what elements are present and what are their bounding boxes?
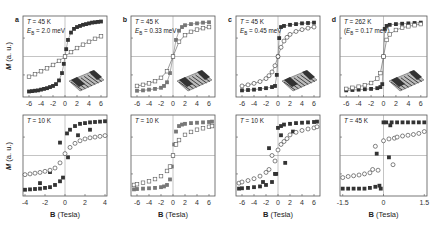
- x-tick-label: -2: [42, 199, 48, 206]
- x-tick-label: -2: [158, 100, 164, 107]
- x-tick-label: 0: [171, 100, 175, 107]
- x-tick-label: 2: [75, 100, 79, 107]
- x-tick-label: 4: [195, 199, 199, 206]
- x-tick-label: 0: [276, 100, 280, 107]
- x-tick-label: 2: [183, 199, 187, 206]
- x-tick-label: 0: [63, 100, 67, 107]
- panel-label: c: [228, 16, 232, 23]
- x-tick-label: -4: [22, 199, 28, 206]
- x-tick-label: -1.5: [337, 199, 349, 206]
- panel-annotation: T = 45 K: [344, 117, 369, 124]
- panel-c-top: -6-4-20246cT = 45 KEB = 0.45 meV: [228, 16, 320, 107]
- panel-annotation: T = 45 K: [240, 18, 265, 25]
- x-tick-label: 2: [288, 100, 292, 107]
- x-tick-label: 6: [312, 199, 316, 206]
- x-tick-label: 4: [300, 199, 304, 206]
- x-tick-label: 2: [394, 100, 398, 107]
- x-tick-label: -4: [146, 100, 152, 107]
- x-tick-label: -4: [356, 100, 362, 107]
- panel-annotation: T = 10 K: [240, 117, 265, 124]
- x-tick-label: -4: [146, 199, 152, 206]
- x-tick-label: 6: [419, 100, 423, 107]
- panel-annotation: T = 10 K: [27, 117, 52, 124]
- x-tick-label: -6: [239, 100, 245, 107]
- panel-a-bottom: -4-2024T = 10 K: [22, 115, 107, 206]
- x-tick-label: 4: [300, 100, 304, 107]
- x-axis-label: B (Tesla): [263, 210, 294, 219]
- x-tick-label: 6: [207, 100, 211, 107]
- panel-d-bottom: -1.501.5T = 45 K: [337, 115, 430, 206]
- panel-label: b: [123, 16, 127, 23]
- x-tick-label: 2: [288, 199, 292, 206]
- panel-c-bottom: -6-4-20246T = 10 K: [236, 115, 320, 206]
- panel-a-top: -6-4-20246aT = 45 KEB = 2.0 meV: [15, 16, 107, 107]
- panel-d-top: -6-4-20246dT = 262 K(EB = 0.17 meV): [332, 16, 427, 107]
- x-tick-label: -2: [263, 199, 269, 206]
- panel-annotation: T = 262 K: [344, 18, 372, 25]
- x-tick-label: 0: [63, 199, 67, 206]
- x-tick-label: 2: [83, 199, 87, 206]
- x-tick-label: 0: [276, 199, 280, 206]
- x-tick-label: -4: [251, 199, 257, 206]
- x-tick-label: 4: [103, 199, 107, 206]
- x-tick-label: -6: [134, 100, 140, 107]
- x-tick-label: -4: [251, 100, 257, 107]
- x-tick-label: -2: [50, 100, 56, 107]
- x-tick-label: -6: [239, 199, 245, 206]
- x-tick-label: -2: [263, 100, 269, 107]
- panel-b-bottom: -6-4-20246T = 10 K: [131, 115, 215, 206]
- magnetization-figure: -6-4-20246aT = 45 KEB = 2.0 meV-6-4-2024…: [0, 0, 442, 232]
- x-tick-label: 2: [183, 100, 187, 107]
- panel-b-top: -6-4-20246bT = 45 KEB = 0.33 meV: [123, 16, 215, 107]
- panel-annotation: T = 10 K: [135, 117, 160, 124]
- x-tick-label: -4: [38, 100, 44, 107]
- x-axis-label: B (Tesla): [158, 210, 189, 219]
- x-tick-label: -6: [26, 100, 32, 107]
- x-axis-label: B (Tesla): [368, 210, 399, 219]
- panel-annotation: T = 45 K: [27, 18, 52, 25]
- x-tick-label: -2: [158, 199, 164, 206]
- x-tick-label: 0: [382, 100, 386, 107]
- panel-label: a: [15, 16, 19, 23]
- x-tick-label: 6: [312, 100, 316, 107]
- x-tick-label: 6: [99, 100, 103, 107]
- x-tick-label: -6: [343, 100, 349, 107]
- panel-label: d: [332, 16, 336, 23]
- y-axis-label: M (a. u.): [4, 42, 13, 70]
- x-tick-label: -2: [368, 100, 374, 107]
- x-tick-label: 6: [207, 199, 211, 206]
- y-axis-label: M (a. u.): [4, 142, 13, 170]
- x-tick-label: 0: [382, 199, 386, 206]
- x-tick-label: 1.5: [419, 199, 429, 206]
- x-tick-label: 4: [406, 100, 410, 107]
- x-axis-label: B (Tesla): [50, 210, 81, 219]
- x-tick-label: 0: [171, 199, 175, 206]
- x-tick-label: 4: [87, 100, 91, 107]
- panel-annotation: T = 45 K: [135, 18, 160, 25]
- x-tick-label: 4: [195, 100, 199, 107]
- x-tick-label: -6: [134, 199, 140, 206]
